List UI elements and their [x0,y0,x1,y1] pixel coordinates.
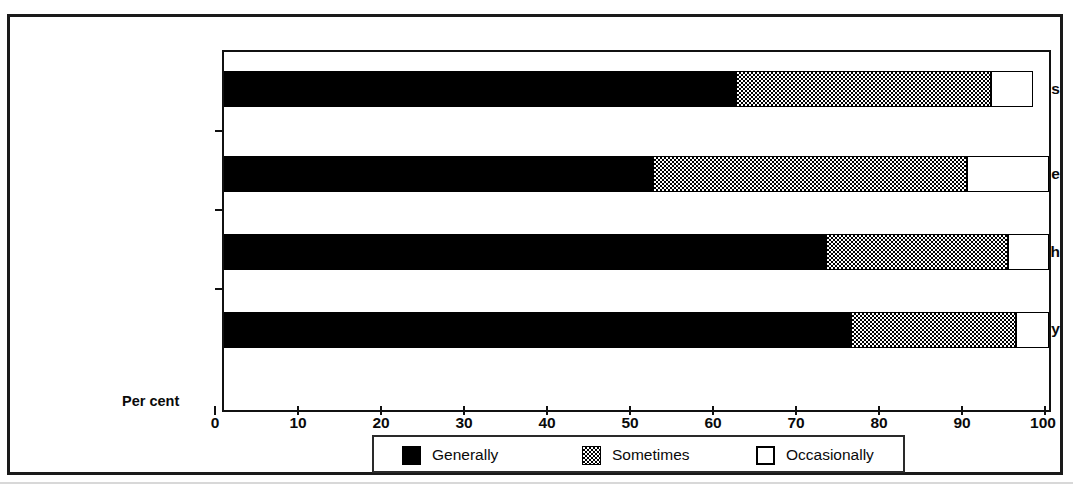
bar-row-sec-maths[interactable] [224,71,1033,107]
bar-segment-generally [224,234,826,270]
bar-segment-generally [224,312,851,348]
bar-segment-occasionally [991,71,1032,107]
x-axis-tick-label-10: 10 [268,415,328,431]
x-axis-tick-label-20: 20 [351,415,411,431]
white-outline-swatch-icon [756,446,775,465]
plot-area [222,50,1051,412]
solid-black-swatch-icon [402,446,421,465]
x-axis-tick-label-100: 100 [1013,415,1073,431]
bar-segment-generally [224,156,653,192]
checkerboard-swatch-icon [582,446,601,465]
x-axis-tick-label-80: 80 [849,415,909,431]
legend-label-occasionally: Occasionally [786,447,874,463]
bar-row-primary[interactable] [224,312,1049,348]
bar-segment-sometimes [851,312,1016,348]
bar-segment-occasionally [1008,234,1049,270]
bar-row-sec-science[interactable] [224,156,1049,192]
bar-row-sec-english[interactable] [224,234,1049,270]
x-axis-tick-label-60: 60 [683,415,743,431]
x-axis-tick-label-40: 40 [517,415,577,431]
bar-segment-generally [224,71,736,107]
scan-edge-artifact [0,482,1073,484]
x-axis-tick-label-30: 30 [434,415,494,431]
bar-segment-sometimes [826,234,1008,270]
x-axis-tick-label-0: 0 [185,415,245,431]
legend-entry-generally[interactable]: Generally [402,445,498,465]
x-axis-title: Per cent [122,394,179,409]
bar-segment-occasionally [967,156,1050,192]
legend-entry-occasionally[interactable]: Occasionally [756,445,874,465]
chart-screenshot: Sec. Maths Sec. Science Sec. English Pri… [0,0,1073,491]
legend: Generally Sometimes Occasionally [372,435,905,473]
bar-segment-occasionally [1016,312,1049,348]
bar-segment-sometimes [736,71,992,107]
legend-label-sometimes: Sometimes [612,447,690,463]
x-axis-tick-label-50: 50 [600,415,660,431]
x-axis-tick-label-70: 70 [766,415,826,431]
legend-entry-sometimes[interactable]: Sometimes [582,445,690,465]
x-axis-tick-label-90: 90 [932,415,992,431]
figure-frame: Sec. Maths Sec. Science Sec. English Pri… [7,14,1063,475]
bar-segment-sometimes [653,156,967,192]
legend-label-generally: Generally [432,447,498,463]
